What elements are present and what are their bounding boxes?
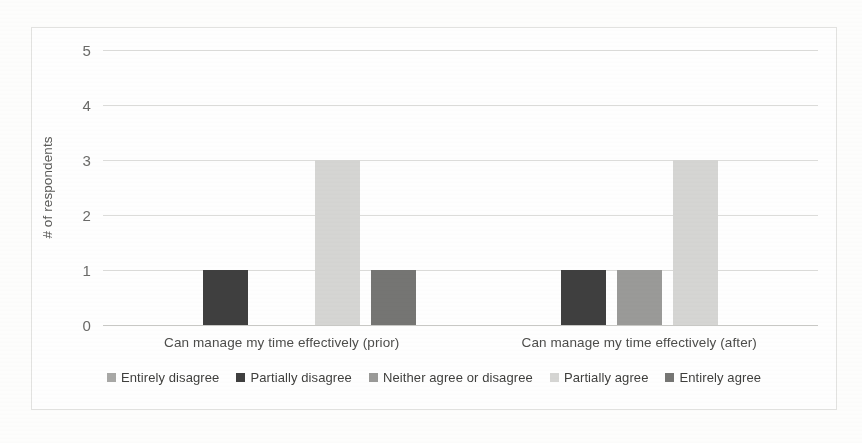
legend-item-2[interactable]: Neither agree or disagree: [369, 370, 533, 385]
y-tick-label-4: 4: [57, 97, 91, 114]
legend-label-2: Neither agree or disagree: [383, 370, 533, 385]
legend-swatch-icon-1: [236, 373, 245, 382]
bar-0-1: [203, 270, 248, 325]
legend-label-0: Entirely disagree: [121, 370, 220, 385]
x-tick-label-1: Can manage my time effectively (after): [461, 335, 819, 350]
gridline-0: [103, 325, 818, 326]
bar-1-3: [673, 160, 718, 325]
x-tick-label-0: Can manage my time effectively (prior): [103, 335, 461, 350]
plot-area: [103, 50, 818, 325]
y-tick-label-0: 0: [57, 317, 91, 334]
legend-item-3[interactable]: Partially agree: [550, 370, 649, 385]
legend-label-3: Partially agree: [564, 370, 649, 385]
bar-0-3: [315, 160, 360, 325]
legend-item-4[interactable]: Entirely agree: [665, 370, 761, 385]
chart-legend: Entirely disagreePartially disagreeNeith…: [31, 370, 837, 385]
legend-swatch-icon-3: [550, 373, 559, 382]
bar-0-4: [371, 270, 416, 325]
legend-label-4: Entirely agree: [679, 370, 761, 385]
y-tick-label-3: 3: [57, 152, 91, 169]
y-axis-title: # of respondents: [36, 50, 58, 325]
bar-1-2: [617, 270, 662, 325]
legend-swatch-icon-0: [107, 373, 116, 382]
bar-1-1: [561, 270, 606, 325]
legend-swatch-icon-2: [369, 373, 378, 382]
chart-figure: # of respondents 012345 Can manage my ti…: [0, 0, 862, 443]
gridline-4: [103, 105, 818, 106]
y-tick-label-1: 1: [57, 262, 91, 279]
legend-swatch-icon-4: [665, 373, 674, 382]
legend-label-1: Partially disagree: [250, 370, 352, 385]
legend-item-1[interactable]: Partially disagree: [236, 370, 352, 385]
y-tick-label-2: 2: [57, 207, 91, 224]
legend-item-0[interactable]: Entirely disagree: [107, 370, 220, 385]
y-tick-label-5: 5: [57, 42, 91, 59]
gridline-5: [103, 50, 818, 51]
y-axis-title-text: # of respondents: [40, 136, 55, 238]
